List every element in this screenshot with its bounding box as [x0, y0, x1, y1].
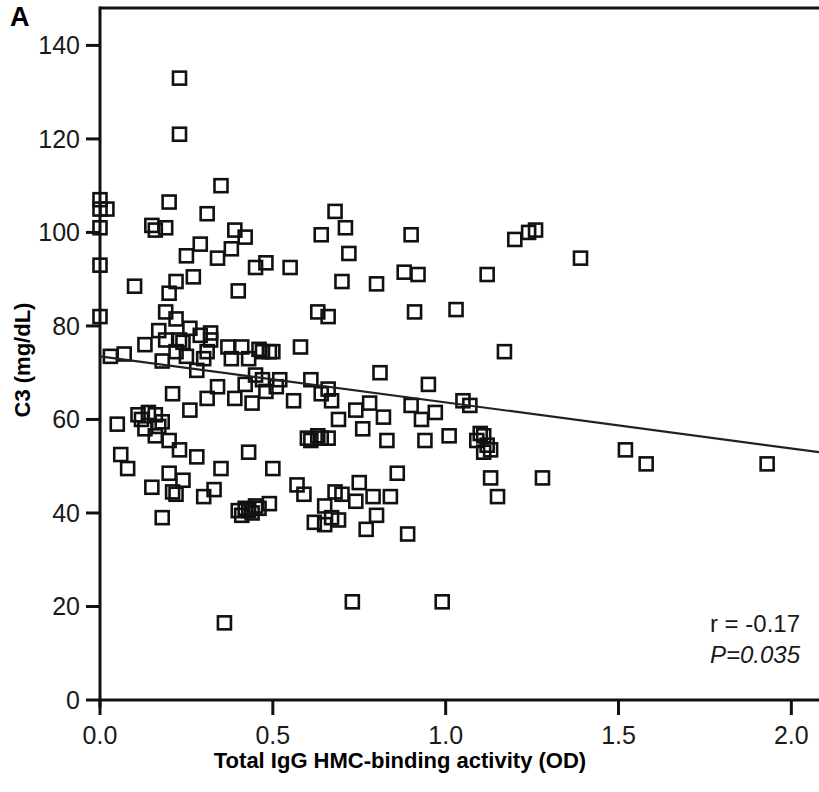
- data-point-marker: [214, 462, 227, 475]
- data-point-marker: [190, 450, 203, 463]
- data-point-marker: [443, 429, 456, 442]
- data-point-marker: [246, 397, 259, 410]
- data-point-marker: [380, 434, 393, 447]
- data-point-marker: [429, 406, 442, 419]
- data-point-marker: [349, 495, 362, 508]
- data-point-marker: [491, 490, 504, 503]
- data-point-marker: [163, 196, 176, 209]
- y-tick-label-120: 120: [38, 125, 80, 153]
- data-point-marker: [163, 467, 176, 480]
- correlation-annotation: r = -0.17: [710, 610, 800, 637]
- data-point-marker: [391, 467, 404, 480]
- data-point-marker: [761, 457, 774, 470]
- data-point-marker: [349, 404, 362, 417]
- data-point-marker: [173, 128, 186, 141]
- data-point-marker: [367, 490, 380, 503]
- y-tick-label-40: 40: [52, 499, 80, 527]
- data-point-marker: [180, 249, 193, 262]
- data-point-marker: [356, 422, 369, 435]
- data-point-marker: [121, 462, 134, 475]
- data-point-marker: [377, 411, 390, 424]
- data-point-marker: [536, 471, 549, 484]
- data-point-marker: [436, 595, 449, 608]
- x-tick-label-2.0: 2.0: [774, 721, 809, 749]
- x-tick-label-1.5: 1.5: [601, 721, 636, 749]
- data-point-marker: [329, 205, 342, 218]
- data-point-marker: [173, 72, 186, 85]
- data-point-marker: [183, 404, 196, 417]
- data-point-marker: [284, 261, 297, 274]
- data-point-marker: [218, 616, 231, 629]
- data-point-marker: [111, 418, 124, 431]
- data-point-marker: [619, 443, 632, 456]
- data-point-marker: [408, 305, 421, 318]
- data-point-marker: [574, 252, 587, 265]
- data-point-marker: [211, 252, 224, 265]
- data-point-marker: [353, 476, 366, 489]
- y-tick-label-20: 20: [52, 592, 80, 620]
- x-tick-label-0.5: 0.5: [255, 721, 290, 749]
- figure-panel-a: A 020406080100120140 0.00.51.01.52.0 Tot…: [0, 0, 819, 792]
- data-point-marker: [114, 448, 127, 461]
- y-tick-label-60: 60: [52, 405, 80, 433]
- y-tick-label-0: 0: [66, 686, 80, 714]
- x-axis-title: Total IgG HMC-binding activity (OD): [214, 748, 586, 773]
- y-axis-ticks: 020406080100120140: [38, 31, 100, 714]
- data-point-marker: [242, 446, 255, 459]
- data-point-marker: [370, 277, 383, 290]
- x-tick-label-0.0: 0.0: [83, 721, 118, 749]
- data-point-marker: [346, 595, 359, 608]
- data-point-marker: [128, 280, 141, 293]
- data-point-marker: [145, 481, 158, 494]
- data-point-marker: [339, 221, 352, 234]
- data-point-marker: [228, 392, 241, 405]
- y-axis-title: C3 (mg/dL): [10, 303, 35, 418]
- data-point-marker: [363, 397, 376, 410]
- data-point-marker: [640, 457, 653, 470]
- data-point-marker: [422, 378, 435, 391]
- x-axis-ticks: 0.00.51.01.52.0: [83, 700, 809, 749]
- data-point-marker: [384, 490, 397, 503]
- data-point-marker: [145, 219, 158, 232]
- data-point-marker: [360, 523, 373, 536]
- data-point-marker: [342, 247, 355, 260]
- data-point-marker: [287, 394, 300, 407]
- data-point-marker: [266, 462, 279, 475]
- data-point-marker: [374, 366, 387, 379]
- data-point-marker: [498, 345, 511, 358]
- data-point-marker: [401, 528, 414, 541]
- pvalue-annotation: P=0.035: [710, 641, 801, 668]
- data-point-marker: [398, 266, 411, 279]
- x-tick-label-1.0: 1.0: [428, 721, 463, 749]
- data-point-marker: [370, 509, 383, 522]
- data-point-marker: [194, 238, 207, 251]
- data-point-marker: [508, 233, 521, 246]
- data-point-marker: [201, 207, 214, 220]
- data-point-marker: [225, 242, 238, 255]
- data-point-marker: [405, 228, 418, 241]
- data-point-marker: [214, 179, 227, 192]
- data-point-marker: [294, 340, 307, 353]
- data-point-marker: [405, 399, 418, 412]
- data-point-marker: [332, 413, 345, 426]
- scatter-plot: 020406080100120140 0.00.51.01.52.0 Total…: [0, 0, 819, 792]
- data-point-marker: [484, 471, 497, 484]
- data-point-marker: [418, 434, 431, 447]
- data-point-marker: [412, 268, 425, 281]
- data-point-marker: [415, 413, 428, 426]
- y-tick-label-140: 140: [38, 31, 80, 59]
- data-point-marker: [187, 270, 200, 283]
- data-point-marker: [156, 511, 169, 524]
- data-point-marker: [232, 284, 245, 297]
- data-point-marker: [481, 268, 494, 281]
- data-points-layer: [94, 72, 774, 630]
- data-point-marker: [450, 303, 463, 316]
- y-tick-label-100: 100: [38, 218, 80, 246]
- data-point-marker: [315, 228, 328, 241]
- data-point-marker: [335, 275, 348, 288]
- data-point-marker: [138, 338, 151, 351]
- y-tick-label-80: 80: [52, 312, 80, 340]
- data-point-marker: [166, 387, 179, 400]
